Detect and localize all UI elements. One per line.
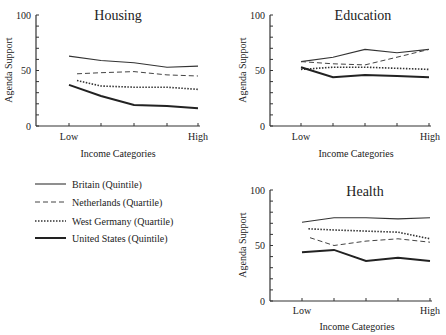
series-lines bbox=[301, 49, 429, 77]
britain-line bbox=[301, 49, 429, 61]
series-lines bbox=[69, 56, 198, 108]
legend-item-britain: Britain (Quintile) bbox=[35, 179, 142, 191]
x-tick-label-low: Low bbox=[293, 305, 312, 316]
housing-chart: Housing 100 50 0 Low High Income Categor… bbox=[3, 8, 208, 159]
legend-item-west-germany: West Germany (Quartile) bbox=[35, 216, 173, 228]
west-germany-line bbox=[301, 67, 429, 69]
y-tick-label-100: 100 bbox=[250, 10, 265, 21]
west-germany-line bbox=[308, 229, 430, 239]
x-axis-label: Income Categories bbox=[318, 148, 393, 159]
legend: Britain (Quintile) Netherlands (Quartile… bbox=[35, 179, 173, 245]
x-axis-label: Income Categories bbox=[80, 148, 155, 159]
west-germany-line bbox=[77, 81, 198, 90]
y-tick-label-100: 100 bbox=[16, 10, 31, 21]
x-axis-label: Income Categories bbox=[319, 321, 394, 332]
x-tick-label-low: Low bbox=[292, 131, 311, 142]
legend-label: United States (Quintile) bbox=[72, 233, 168, 245]
legend-label: Britain (Quintile) bbox=[72, 179, 142, 191]
y-axis-label: Agenda Support bbox=[3, 37, 14, 102]
health-chart: Health 100 50 0 Low High Income Categori… bbox=[237, 184, 440, 332]
series-lines bbox=[302, 218, 430, 261]
chart-title: Housing bbox=[94, 8, 141, 23]
y-tick-label-50: 50 bbox=[21, 65, 31, 76]
united-states-line bbox=[302, 250, 430, 261]
netherlands-line bbox=[77, 72, 198, 76]
y-tick-label-50: 50 bbox=[255, 65, 265, 76]
y-tick-label-0: 0 bbox=[260, 121, 265, 132]
x-tick-label-high: High bbox=[188, 131, 208, 142]
x-tick-label-high: High bbox=[420, 305, 440, 316]
y-tick-label-0: 0 bbox=[26, 121, 31, 132]
chart-title: Health bbox=[346, 184, 383, 199]
x-tick-label-high: High bbox=[420, 131, 440, 142]
y-axis-label: Agenda Support bbox=[237, 37, 248, 102]
y-tick-label-50: 50 bbox=[255, 240, 265, 251]
legend-item-netherlands: Netherlands (Quartile) bbox=[35, 197, 162, 209]
britain-line bbox=[302, 218, 430, 222]
y-tick-label-100: 100 bbox=[250, 185, 265, 196]
legend-label: Netherlands (Quartile) bbox=[72, 197, 162, 209]
britain-line bbox=[69, 56, 198, 67]
chart-title: Education bbox=[335, 8, 392, 23]
legend-item-united-states: United States (Quintile) bbox=[35, 233, 168, 245]
figure: Housing 100 50 0 Low High Income Categor… bbox=[0, 0, 446, 335]
netherlands-line bbox=[310, 238, 430, 246]
y-axis-label: Agenda Support bbox=[237, 212, 248, 277]
legend-label: West Germany (Quartile) bbox=[72, 216, 173, 228]
x-tick-label-low: Low bbox=[60, 131, 79, 142]
education-chart: Education 100 50 0 Low High Income Categ… bbox=[237, 8, 440, 159]
y-tick-label-0: 0 bbox=[260, 296, 265, 307]
